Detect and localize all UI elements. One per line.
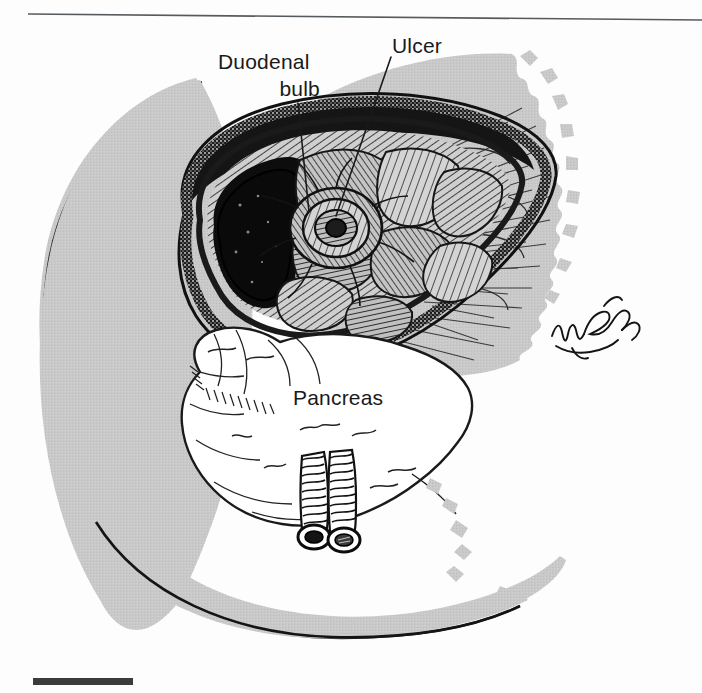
top-rule [28,14,702,20]
mesenteric-vessels [298,450,360,552]
label-duodenal-bulb-line1: Duodenal [218,50,310,73]
bottom-bar-marker [33,678,133,685]
label-ulcer: Ulcer [392,34,442,57]
artist-signature [552,297,640,358]
figure-container: Duodenal bulb Ulcer Pancreas [0,0,702,693]
anatomical-illustration: Duodenal bulb Ulcer Pancreas [0,0,702,693]
label-duodenal-bulb-line2: bulb [279,77,320,100]
label-pancreas: Pancreas [293,386,383,409]
